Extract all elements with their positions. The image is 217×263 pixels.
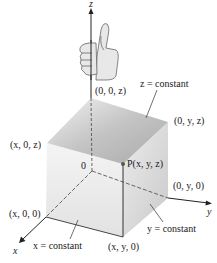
coordinate-diagram: z y x 0 (0, 0, z) z = constant (0, y, z)…	[0, 0, 217, 263]
y-axis-arrow-icon	[206, 201, 213, 206]
label-0-0-z: (0, 0, z)	[95, 85, 126, 97]
label-x-y-0: (x, y, 0)	[108, 241, 139, 253]
label-0-y-0: (0, y, 0)	[173, 180, 204, 192]
label-x-0-0: (x, 0, 0)	[9, 208, 41, 220]
x-axis	[22, 217, 46, 240]
x-axis-label: x	[12, 245, 18, 256]
origin-label: 0	[81, 160, 86, 171]
label-x-constant: x = constant	[33, 240, 82, 251]
label-z-constant: z = constant	[140, 78, 189, 89]
y-axis	[168, 198, 208, 203]
label-y-constant: y = constant	[147, 223, 196, 234]
point-p-marker	[121, 162, 125, 166]
z-plane-leader	[146, 90, 157, 118]
label-x-0-z: (x, 0, z)	[10, 139, 41, 151]
right-hand-thumbs-up-icon	[80, 24, 119, 80]
label-0-y-z: (0, y, z)	[174, 115, 204, 127]
y-axis-label: y	[206, 206, 212, 217]
z-axis-label: z	[88, 0, 93, 9]
label-point-p: P(x, y, z)	[127, 158, 163, 170]
